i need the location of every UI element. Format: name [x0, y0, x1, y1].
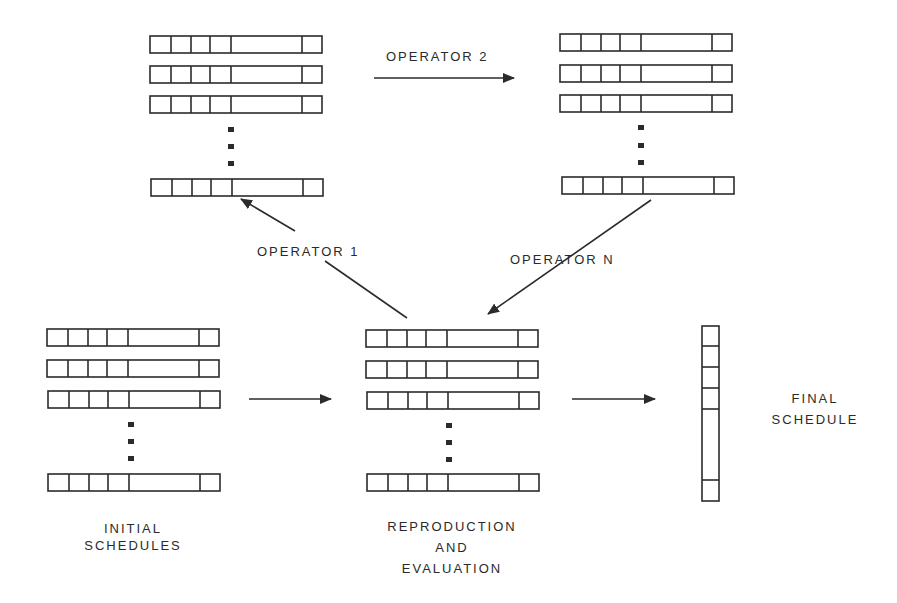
ellipsis-dot [638, 160, 644, 165]
chromosome-row [366, 361, 538, 378]
ellipsis-dot [446, 423, 452, 428]
ellipsis-dot [446, 457, 452, 462]
chromosome-group-initial [47, 329, 220, 491]
chromosome-row [47, 329, 219, 346]
chromosome-group-top-left [150, 36, 323, 196]
ellipsis-dot [128, 422, 134, 427]
label-line: REPRODUCTION [372, 516, 532, 537]
chromosome-row [560, 65, 732, 82]
chromosome-row [48, 391, 220, 408]
label-line: EVALUATION [372, 558, 532, 579]
label-operator-2: OPERATOR 2 [386, 48, 489, 65]
chromosome-row [367, 392, 539, 409]
label-reproduction-evaluation: REPRODUCTION AND EVALUATION [372, 516, 532, 579]
ellipsis-dot [228, 127, 234, 132]
ellipsis-dot [638, 125, 644, 130]
label-line: AND [372, 537, 532, 558]
label-operator-n: OPERATOR N [510, 251, 615, 268]
chromosome-row [151, 179, 323, 196]
chromosome-row [560, 95, 732, 112]
label-line: SCHEDULES [68, 537, 198, 554]
chromosome-row [150, 66, 322, 83]
chromosome-group-top-right [560, 34, 734, 194]
chromosome-row [150, 96, 322, 113]
chromosome-row [366, 330, 538, 347]
label-line: FINAL [760, 388, 870, 409]
label-operator-1: OPERATOR 1 [257, 243, 360, 260]
ellipsis-dot [128, 456, 134, 461]
label-final-schedule: FINAL SCHEDULE [760, 388, 870, 430]
diagram-canvas [0, 0, 897, 603]
final-schedule-column [702, 326, 719, 501]
chromosome-row [562, 177, 734, 194]
chromosome-row [560, 34, 732, 51]
chromosome-row [47, 360, 219, 377]
label-line: INITIAL [68, 520, 198, 537]
ellipsis-dot [446, 440, 452, 445]
ellipsis-dot [228, 144, 234, 149]
label-initial-schedules: INITIAL SCHEDULES [68, 520, 198, 554]
ellipsis-dot [128, 439, 134, 444]
arrow-operator-1-head [241, 199, 295, 231]
chromosome-row [48, 474, 220, 491]
chromosome-row [367, 474, 539, 491]
ellipsis-dot [638, 143, 644, 148]
label-line: SCHEDULE [760, 409, 870, 430]
ellipsis-dot [228, 161, 234, 166]
chromosome-row [150, 36, 322, 53]
chromosome-group-reproduction [366, 330, 539, 491]
arrow-operator-1-tail [325, 261, 407, 318]
